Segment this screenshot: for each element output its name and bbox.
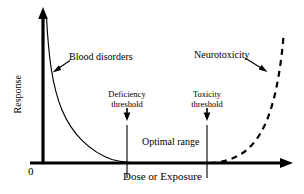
blood-disorders-arrowhead	[53, 65, 62, 72]
neurotoxicity-arrowhead	[259, 65, 268, 72]
optimal-range-label: Optimal range	[142, 137, 199, 148]
blood-disorders-annotation-label: Blood disorders	[69, 52, 133, 63]
dose-response-figure: Response 0 Dose or Exposure Blood disord…	[0, 0, 304, 194]
dose-response-chart-canvas	[0, 0, 304, 194]
origin-label: 0	[28, 166, 34, 178]
x-axis-label: Dose or Exposure	[123, 171, 202, 183]
toxicity-threshold-arrowhead	[204, 113, 211, 122]
toxicity-threshold-label-line2: threshold	[182, 100, 232, 110]
deficiency-threshold-arrowhead	[124, 113, 131, 122]
y-axis-label: Response	[13, 64, 24, 124]
deficiency-threshold-label: Deficiency threshold	[102, 90, 152, 110]
blood-disorders-annotation-arrow	[53, 61, 71, 73]
toxicity-threshold-label: Toxicity threshold	[182, 90, 232, 110]
deficiency-threshold-marker	[124, 108, 131, 178]
x-axis-arrowhead	[280, 158, 293, 168]
deficiency-threshold-label-line2: threshold	[102, 100, 152, 110]
neurotoxicity-annotation-label: Neurotoxicity	[194, 50, 250, 61]
toxicity-threshold-marker	[204, 108, 211, 178]
